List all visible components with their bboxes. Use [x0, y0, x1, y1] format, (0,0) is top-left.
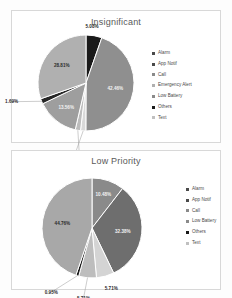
slice-percentage-label: 13.56%	[58, 105, 74, 110]
legend-item-label: Text	[158, 116, 166, 121]
legend-swatch-icon	[152, 106, 155, 109]
slice-percentage-label: 0.95%	[45, 290, 58, 295]
legend-item[interactable]: Text	[152, 116, 192, 121]
legend-item[interactable]: Alarm	[186, 187, 216, 192]
legend-item[interactable]: Low Battery	[186, 219, 216, 224]
legend-item[interactable]: Others	[186, 230, 216, 235]
legend-swatch-icon	[186, 220, 189, 223]
legend-item[interactable]: App Notif	[186, 198, 216, 203]
low-priority-legend: AlarmApp NotifCallLow BatteryOthersText	[186, 187, 216, 252]
legend-item-label: Alarm	[192, 187, 204, 192]
legend-item-label: Text	[192, 241, 200, 246]
legend-item-label: Alarm	[158, 51, 170, 56]
slice-percentage-label: 44.76%	[55, 221, 71, 226]
legend-item[interactable]: App Notif	[152, 62, 192, 67]
slice-percentage-label: 5.08%	[86, 24, 99, 29]
slice-percentage-label: 28.81%	[54, 63, 70, 68]
legend-item[interactable]: Call	[186, 209, 216, 214]
legend-swatch-icon	[186, 231, 189, 234]
page-title-low-priority: Low Priority	[12, 156, 220, 166]
legend-item-label: Call	[158, 73, 166, 78]
legend-item[interactable]: Others	[152, 105, 192, 110]
legend-swatch-icon	[186, 242, 189, 245]
insignificant-pie-svg: 5.08%42.46%1.69%1.69%13.56%1.69%28.81%	[24, 29, 149, 141]
legend-swatch-icon	[186, 209, 189, 212]
legend-item-label: Low Battery	[158, 94, 182, 99]
legend-item[interactable]: Text	[186, 241, 216, 246]
legend-swatch-icon	[152, 63, 155, 66]
insignificant-legend: AlarmApp NotifCallEmergency AlertLow Bat…	[152, 51, 192, 126]
legend-item-label: Others	[158, 105, 172, 110]
slice-percentage-label: 1.69%	[5, 99, 18, 104]
insignificant-pie-area: 5.08%42.46%1.69%1.69%13.56%1.69%28.81%	[24, 29, 149, 141]
legend-item-label: Low Battery	[192, 219, 216, 224]
legend-item[interactable]: Low Battery	[152, 94, 192, 99]
legend-item-label: Others	[192, 230, 206, 235]
legend-item-label: Call	[192, 209, 200, 214]
legend-swatch-icon	[152, 52, 155, 55]
slice-percentage-label: 32.38%	[115, 229, 131, 234]
low-priority-pie-svg: 10.48%32.38%5.71%5.71%0.95%44.76%	[26, 171, 156, 289]
legend-item[interactable]: Emergency Alert	[152, 83, 192, 88]
legend-item-label: App Notif	[158, 62, 177, 67]
slice-percentage-label: 10.48%	[96, 192, 112, 197]
legend-swatch-icon	[152, 95, 155, 98]
page-title-insignificant: Insignificant	[12, 17, 220, 27]
legend-swatch-icon	[152, 73, 155, 76]
charts-page: Insignificant 5.08%42.46%1.69%1.69%13.56…	[0, 0, 232, 298]
legend-item[interactable]: Call	[152, 73, 192, 78]
legend-swatch-icon	[186, 188, 189, 191]
legend-item[interactable]: Alarm	[152, 51, 192, 56]
low-priority-pie-area: 10.48%32.38%5.71%5.71%0.95%44.76%	[26, 171, 156, 289]
legend-item-label: Emergency Alert	[158, 83, 192, 88]
legend-swatch-icon	[152, 84, 155, 87]
legend-item-label: App Notif	[192, 198, 211, 203]
insignificant-chart-card: Insignificant 5.08%42.46%1.69%1.69%13.56…	[11, 10, 221, 143]
legend-swatch-icon	[152, 116, 155, 119]
slice-percentage-label: 42.46%	[108, 86, 124, 91]
low-priority-chart-card: Low Priority 10.48%32.38%5.71%5.71%0.95%…	[11, 150, 221, 290]
slice-percentage-label: 5.71%	[105, 286, 118, 291]
legend-swatch-icon	[186, 199, 189, 202]
